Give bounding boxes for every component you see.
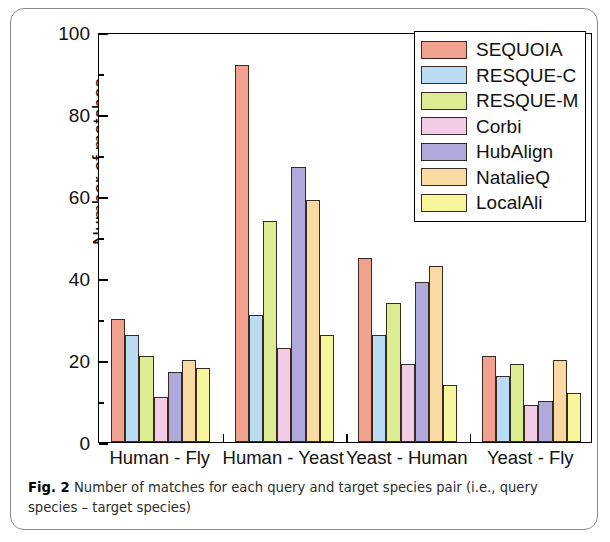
bar [320,335,334,442]
y-tick-minor [99,402,104,403]
bar [415,282,429,442]
bar [139,356,153,442]
bar [524,405,538,442]
legend-swatch [421,117,467,135]
y-tick-label: 40 [38,270,90,289]
y-tick-label: 100 [38,24,90,43]
legend-label: LocalAli [476,193,543,212]
legend: SEQUOIARESQUE-CRESQUE-MCorbiHubAlignNata… [414,31,586,222]
y-tick-major [99,361,108,363]
y-tick-label: 20 [38,352,90,371]
legend-item: HubAlign [421,139,578,165]
bar [538,401,552,442]
bar [235,65,249,442]
bar [510,364,524,442]
legend-label: RESQUE-C [476,66,576,85]
legend-label: NatalieQ [476,168,550,187]
bar [291,167,305,442]
y-tick-label: 60 [38,188,90,207]
legend-item: RESQUE-C [421,63,578,89]
y-tick-major [99,443,108,445]
y-tick-label: 80 [38,106,90,125]
y-tick-major [99,197,108,199]
y-tick-minor [99,156,104,157]
legend-swatch [421,66,467,84]
legend-swatch [421,41,467,59]
y-tick-major [99,279,108,281]
legend-label: SEQUOIA [476,40,563,59]
legend-item: SEQUOIA [421,37,578,63]
legend-label: RESQUE-M [476,91,578,110]
figure-caption: Fig. 2 Number of matches for each query … [28,478,578,519]
bar [306,200,320,442]
legend-swatch [421,194,467,212]
bar [553,360,567,442]
bar [443,385,457,442]
bar [496,376,510,442]
legend-label: Corbi [476,117,521,136]
bar [263,221,277,442]
legend-label: HubAlign [476,142,553,161]
bar [429,266,443,442]
legend-item: NatalieQ [421,165,578,191]
bar [482,356,496,442]
x-tick-boundary [346,434,348,442]
legend-item: LocalAli [421,190,578,216]
x-category-label: Yeast - Fly [450,447,610,469]
figure-caption-label: Fig. 2 [28,480,70,495]
bar [125,335,139,442]
legend-swatch [421,143,467,161]
figure-caption-text: Number of matches for each query and tar… [28,480,538,515]
legend-swatch [421,92,467,110]
bar [182,360,196,442]
x-tick-boundary [470,434,472,442]
y-tick-minor [99,74,104,75]
bar [401,364,415,442]
y-tick-major [99,33,108,35]
y-tick-minor [99,238,104,239]
bar [358,258,372,443]
legend-swatch [421,168,467,186]
bar [111,319,125,442]
bar-chart: Number of matches 020406080100 Human - F… [0,0,610,470]
y-tick-major [99,115,108,117]
bar [196,368,210,442]
x-tick-boundary [223,434,225,442]
bar [372,335,386,442]
bar [249,315,263,442]
bar [154,397,168,442]
bar [168,372,182,442]
bar [277,348,291,442]
y-tick-minor [99,320,104,321]
bar [386,303,400,442]
bar [567,393,581,442]
legend-item: RESQUE-M [421,88,578,114]
legend-item: Corbi [421,114,578,140]
